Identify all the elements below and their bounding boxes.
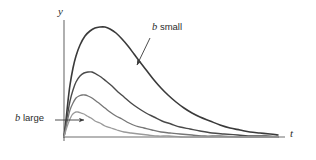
damped-response-figure: y t b small b large [0, 0, 316, 160]
axes [64, 20, 285, 141]
t-axis-label: t [290, 128, 293, 139]
b-small-text: small [157, 21, 182, 32]
b-small-arrow [137, 38, 150, 65]
curve-group [64, 27, 278, 137]
curve-b-small-mid [64, 72, 278, 137]
y-axis-label: y [58, 6, 63, 17]
b-large-label: b large [15, 113, 44, 124]
b-small-label: b small [152, 22, 182, 33]
curve-b-smallest [64, 27, 278, 137]
b-large-text: large [20, 112, 44, 123]
